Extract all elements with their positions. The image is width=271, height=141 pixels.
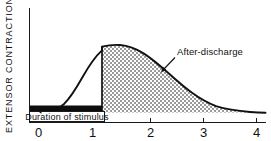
figure-container: 0 1 2 3 4 EXTENSOR CONTRACTION Duration … <box>0 0 271 141</box>
x-tick-label-2: 2 <box>147 125 154 140</box>
y-axis-label: EXTENSOR CONTRACTION <box>4 0 14 133</box>
duration-of-stimulus-label: Duration of stimulus <box>25 112 109 122</box>
extensor-contraction-chart: 0 1 2 3 4 EXTENSOR CONTRACTION Duration … <box>0 0 271 141</box>
x-axis-tick-labels: 0 1 2 3 4 <box>35 125 260 140</box>
x-tick-label-0: 0 <box>35 125 42 140</box>
after-discharge-leader-arrow <box>161 58 175 73</box>
x-tick-label-3: 3 <box>200 125 207 140</box>
x-tick-label-1: 1 <box>89 125 96 140</box>
after-discharge-label: After-discharge <box>177 46 243 57</box>
x-tick-label-4: 4 <box>253 125 260 140</box>
